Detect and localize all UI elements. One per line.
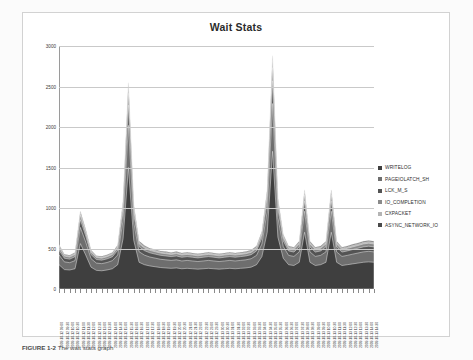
legend-label: ASYNC_NETWORK_IO xyxy=(385,223,438,228)
x-axis-tick xyxy=(171,289,172,293)
x-axis-tick xyxy=(176,289,177,293)
x-axis-tick xyxy=(128,289,129,293)
x-axis-tick xyxy=(187,289,188,293)
y-axis-tick-label: 3000 xyxy=(46,44,56,49)
x-axis-tick xyxy=(347,289,348,293)
x-axis-tick xyxy=(91,289,92,293)
x-axis-tick xyxy=(342,289,343,293)
x-axis-tick xyxy=(59,289,60,293)
x-axis-tick xyxy=(208,289,209,293)
x-axis-tick xyxy=(192,289,193,293)
y-axis-tick-label: 0 xyxy=(53,287,56,292)
figure-page: Wait Stats 050010001500200025003000 2009… xyxy=(0,0,473,360)
legend-label: LCK_M_S xyxy=(385,188,408,193)
legend-swatch-icon xyxy=(378,189,382,193)
x-axis-tick xyxy=(289,289,290,293)
legend-swatch-icon xyxy=(378,200,382,204)
x-axis-tick xyxy=(273,289,274,293)
x-axis-tick xyxy=(198,289,199,293)
y-axis-tick-label: 2000 xyxy=(46,125,56,130)
x-axis-tick xyxy=(182,289,183,293)
gridline xyxy=(59,87,374,88)
legend-item-writelog[interactable]: WRITELOG xyxy=(378,165,470,170)
legend-swatch-icon xyxy=(378,177,382,181)
chart-frame: Wait Stats 050010001500200025003000 2009… xyxy=(22,12,450,337)
x-axis-tick xyxy=(262,289,263,293)
legend-label: IO_COMPLETION xyxy=(385,200,426,205)
chart-legend: WRITELOGPAGEIOLATCH_SHLCK_M_SIO_COMPLETI… xyxy=(378,165,470,234)
x-axis-tick xyxy=(219,289,220,293)
x-axis-tick xyxy=(241,289,242,293)
x-axis-tick xyxy=(102,289,103,293)
x-axis-tick xyxy=(326,289,327,293)
figure-caption-text: The wait stats graph xyxy=(58,344,114,351)
x-axis-tick xyxy=(134,289,135,293)
x-axis-tick xyxy=(230,289,231,293)
plot-area xyxy=(59,46,374,289)
legend-item-pageiolatch_sh[interactable]: PAGEIOLATCH_SH xyxy=(378,177,470,182)
x-axis-tick xyxy=(278,289,279,293)
x-axis-tick xyxy=(155,289,156,293)
legend-label: CXPACKET xyxy=(385,211,411,216)
x-axis-tick xyxy=(337,289,338,293)
x-axis-tick xyxy=(246,289,247,293)
legend-swatch-icon xyxy=(378,166,382,170)
x-axis-tick xyxy=(374,289,375,293)
gridline xyxy=(59,168,374,169)
figure-caption: FIGURE 1-2 The wait stats graph xyxy=(22,344,452,351)
x-axis-tick xyxy=(150,289,151,293)
gridline xyxy=(59,208,374,209)
legend-item-async_network_io[interactable]: ASYNC_NETWORK_IO xyxy=(378,223,470,228)
x-axis-tick xyxy=(118,289,119,293)
x-axis-tick xyxy=(225,289,226,293)
x-axis-tick xyxy=(107,289,108,293)
x-axis-tick xyxy=(70,289,71,293)
x-axis-tick xyxy=(299,289,300,293)
legend-label: WRITELOG xyxy=(385,165,411,170)
x-axis-tick xyxy=(369,289,370,293)
x-axis-tick xyxy=(251,289,252,293)
x-axis-tick xyxy=(353,289,354,293)
x-axis-tick xyxy=(86,289,87,293)
x-axis-tick xyxy=(294,289,295,293)
x-axis-tick xyxy=(257,289,258,293)
x-axis-tick xyxy=(64,289,65,293)
legend-swatch-icon xyxy=(378,223,382,227)
x-axis-tick xyxy=(310,289,311,293)
x-axis-tick xyxy=(305,289,306,293)
legend-item-io_completion[interactable]: IO_COMPLETION xyxy=(378,200,470,205)
x-axis-tick xyxy=(235,289,236,293)
legend-item-cxpacket[interactable]: CXPACKET xyxy=(378,211,470,216)
x-axis-tick xyxy=(214,289,215,293)
y-axis-tick-label: 1000 xyxy=(46,206,56,211)
x-axis-tick xyxy=(75,289,76,293)
x-axis-tick xyxy=(315,289,316,293)
x-axis-tick xyxy=(144,289,145,293)
x-axis-tick xyxy=(139,289,140,293)
x-axis-tick xyxy=(160,289,161,293)
x-axis-tick xyxy=(96,289,97,293)
legend-item-lck_m_s[interactable]: LCK_M_S xyxy=(378,188,470,193)
x-axis-tick xyxy=(166,289,167,293)
x-axis-tick xyxy=(267,289,268,293)
y-axis-tick-label: 2500 xyxy=(46,84,56,89)
x-axis-tick xyxy=(283,289,284,293)
x-axis-tick xyxy=(112,289,113,293)
x-axis-tick xyxy=(363,289,364,293)
y-axis-labels: 050010001500200025003000 xyxy=(23,13,59,336)
x-axis-tick xyxy=(80,289,81,293)
x-axis-tick xyxy=(331,289,332,293)
gridline xyxy=(59,46,374,47)
x-axis-ticks xyxy=(59,289,374,293)
x-axis-tick xyxy=(321,289,322,293)
y-axis-tick-label: 500 xyxy=(48,246,56,251)
gridline xyxy=(59,249,374,250)
legend-label: PAGEIOLATCH_SH xyxy=(385,177,429,182)
gridline xyxy=(59,127,374,128)
x-axis-tick xyxy=(203,289,204,293)
figure-caption-label: FIGURE 1-2 xyxy=(22,344,56,351)
x-axis-labels: 2009-10-12 09:002009-10-12 09:302009-10-… xyxy=(59,294,374,350)
x-axis-tick xyxy=(123,289,124,293)
x-axis-tick xyxy=(358,289,359,293)
legend-swatch-icon xyxy=(378,212,382,216)
